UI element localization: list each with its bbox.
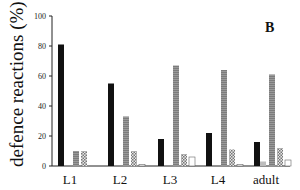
bar-chart: 020406080100 L1L2L3L4adult defence react… — [0, 0, 300, 190]
x-tick-labels: L1L2L3L4adult — [63, 172, 280, 187]
bar-black — [206, 133, 212, 166]
bar-gray-striped — [73, 151, 79, 166]
bar-checkered — [277, 148, 283, 166]
bar-gray-striped — [123, 117, 129, 167]
bar-white — [139, 165, 145, 167]
bar-checkered — [131, 151, 137, 166]
bars — [58, 45, 291, 167]
bar-checkered — [81, 151, 87, 166]
x-tick-label: L2 — [113, 172, 127, 187]
y-tick-label: 60 — [38, 72, 46, 81]
bar-white — [285, 160, 291, 166]
y-tick-label: 0 — [42, 162, 46, 171]
y-tick-label: 20 — [38, 132, 46, 141]
panel-label: B — [265, 20, 274, 36]
bar-black — [158, 139, 164, 166]
bar-black — [108, 84, 114, 167]
bar-gray-striped — [221, 70, 227, 166]
bar-black — [254, 142, 260, 166]
bar-checkered — [229, 150, 235, 167]
bar-checkered — [181, 154, 187, 166]
bar-white — [189, 157, 195, 166]
bar-gray-striped — [173, 66, 179, 167]
x-tick-label: L4 — [211, 172, 226, 187]
y-axis-label: defence reactions (%) — [5, 17, 29, 167]
bar-white — [237, 165, 243, 167]
bar-black — [58, 45, 64, 167]
bar-gray-striped — [269, 75, 275, 167]
y-tick-label: 80 — [38, 42, 46, 51]
bar-light-gray — [260, 162, 266, 167]
x-tick-label: adult — [253, 172, 279, 187]
x-tick-label: L1 — [63, 172, 77, 187]
y-tick-label: 40 — [38, 102, 46, 111]
chart-canvas: 020406080100 L1L2L3L4adult — [0, 0, 300, 190]
y-tick-label: 100 — [34, 12, 46, 21]
x-tick-label: L3 — [163, 172, 177, 187]
